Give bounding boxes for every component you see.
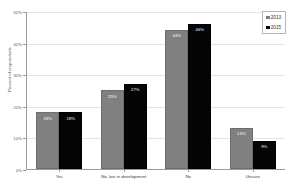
y-axis-tick-mark: [23, 138, 26, 139]
bar-2013[interactable]: 44%: [165, 30, 188, 169]
y-axis-tick-mark: [23, 44, 26, 45]
x-axis-tick-mark: [188, 169, 189, 172]
y-axis-tick-mark: [23, 75, 26, 76]
bar-2015[interactable]: 18%: [59, 112, 82, 169]
bar-group: 44%46%No: [156, 12, 221, 169]
bar-2015[interactable]: 27%: [124, 84, 147, 169]
x-axis-tick-mark: [253, 169, 254, 172]
bar-value-label: 13%: [231, 131, 252, 136]
y-axis-tick-label: 50%: [14, 10, 22, 15]
legend-label: 2013: [271, 15, 281, 20]
legend-item-2015[interactable]: 2015: [266, 25, 281, 30]
y-axis-tick-label: 30%: [14, 73, 22, 78]
chart-legend: 2013 2015: [262, 11, 286, 34]
x-axis-category-label: Unsure: [201, 174, 292, 179]
bar-value-label: 44%: [166, 33, 187, 38]
bar-value-label: 18%: [37, 116, 58, 121]
x-axis-line: [26, 169, 285, 170]
y-axis-tick-label: 10%: [14, 136, 22, 141]
bar-group: 18%18%Yes: [27, 12, 92, 169]
legend-swatch-icon: [266, 16, 270, 20]
bar-value-label: 9%: [254, 144, 275, 149]
bar-group: 13%9%Unsure: [221, 12, 286, 169]
bar-value-label: 25%: [102, 94, 123, 99]
plot-area: 0%10%20%30%40%50% 18%18%Yes25%27%No, but…: [26, 12, 285, 170]
bar-chart: Percent of respondents 0%10%20%30%40%50%…: [0, 0, 291, 187]
bar-2013[interactable]: 18%: [36, 112, 59, 169]
y-axis-tick-label: 0%: [16, 168, 22, 173]
x-axis-tick-mark: [124, 169, 125, 172]
bar-value-label: 46%: [189, 27, 210, 32]
y-axis-tick-mark: [23, 12, 26, 13]
bar-2015[interactable]: 9%: [253, 141, 276, 169]
bar-groups: 18%18%Yes25%27%No, but in development44%…: [27, 12, 285, 169]
bar-2013[interactable]: 25%: [101, 90, 124, 169]
bar-value-label: 18%: [60, 116, 81, 121]
legend-item-2013[interactable]: 2013: [266, 15, 281, 20]
bar-group: 25%27%No, but in development: [92, 12, 157, 169]
y-axis-tick-label: 40%: [14, 41, 22, 46]
bar-value-label: 27%: [125, 87, 146, 92]
y-axis-title: Percent of respondents: [7, 30, 12, 110]
chart-title-remnant: [0, 0, 291, 5]
y-axis-tick-label: 20%: [14, 104, 22, 109]
bar-2013[interactable]: 13%: [230, 128, 253, 169]
bar-2015[interactable]: 46%: [188, 24, 211, 169]
legend-label: 2015: [271, 25, 281, 30]
x-axis-tick-mark: [59, 169, 60, 172]
y-axis-tick-mark: [23, 170, 26, 171]
legend-swatch-icon: [266, 26, 270, 30]
y-axis-tick-mark: [23, 107, 26, 108]
